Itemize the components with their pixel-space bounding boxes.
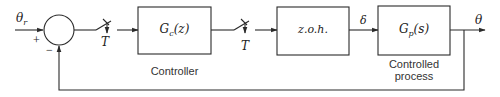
plant-transfer-function: Gp(s)	[399, 22, 430, 38]
input-label: θr	[16, 11, 28, 27]
plus-sign: +	[33, 33, 40, 47]
block-diagram: θr + − T Gc(z) Controller T z.o.h.	[0, 0, 500, 97]
minus-sign: −	[46, 43, 53, 57]
zoh-block: z.o.h.	[277, 7, 349, 55]
zoh-label: z.o.h.	[297, 23, 328, 36]
plant-caption-line1: Controlled	[389, 58, 439, 70]
plant-caption-line2: process	[395, 70, 434, 82]
plant-block: Gp(s) Controlled process	[378, 6, 450, 82]
output-label: θ	[475, 13, 483, 27]
controller-block: Gc(z) Controller	[138, 7, 211, 77]
summing-junction: + −	[33, 15, 74, 57]
sampler-switch-1: T	[96, 19, 111, 49]
delta-signal-label: δ	[360, 14, 367, 27]
input-signal: θr	[15, 11, 43, 30]
sampler-period-label: T	[101, 35, 110, 49]
controller-caption: Controller	[151, 65, 199, 77]
sampler-period-label: T	[241, 39, 250, 53]
controller-transfer-function: Gc(z)	[160, 22, 190, 38]
sampler-switch-2: T	[234, 19, 250, 53]
